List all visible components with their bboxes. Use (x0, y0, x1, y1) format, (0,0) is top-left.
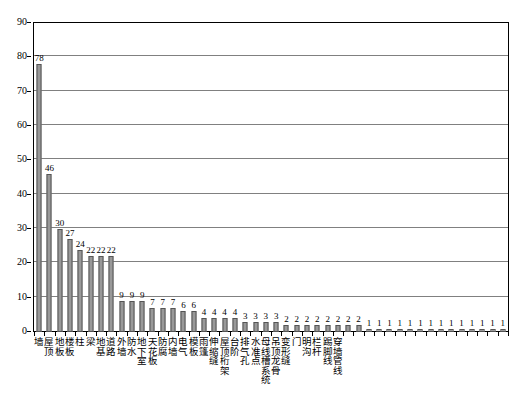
bar[interactable] (37, 64, 42, 332)
x-tick (467, 332, 468, 336)
x-tick (86, 332, 87, 336)
bar-slot: 1 (426, 23, 436, 332)
bar-value-label: 1 (398, 319, 403, 328)
bar-value-label: 7 (161, 298, 166, 307)
bar[interactable] (88, 256, 93, 332)
bar-value-label: 22 (107, 246, 116, 255)
bar[interactable] (315, 325, 320, 332)
x-tick (353, 332, 354, 336)
bar-slot: 7 (147, 23, 157, 332)
bar[interactable] (140, 301, 145, 332)
x-tick (116, 332, 117, 336)
x-tick (302, 332, 303, 336)
bar-slot: 1 (477, 23, 487, 332)
bar-slot: 3 (240, 23, 250, 332)
x-tick (292, 332, 293, 336)
bar[interactable] (335, 325, 340, 332)
bar-slot: 22 (106, 23, 116, 332)
bar-slot: 4 (219, 23, 229, 332)
bar[interactable] (346, 325, 351, 332)
bar-slot: 7 (158, 23, 168, 332)
bar[interactable] (243, 322, 248, 332)
bar-slot: 6 (189, 23, 199, 332)
bar-slot: 78 (34, 23, 44, 332)
bar[interactable] (47, 174, 52, 332)
bar-slot: 22 (96, 23, 106, 332)
bar-slot: 1 (456, 23, 466, 332)
y-tick-mark (27, 125, 31, 126)
bar-value-label: 2 (294, 315, 299, 324)
bar[interactable] (202, 318, 207, 332)
bar[interactable] (129, 301, 134, 332)
bar-slot: 2 (302, 23, 312, 332)
x-tick (364, 332, 365, 336)
x-tick (343, 332, 344, 336)
bar-value-label: 46 (45, 164, 54, 173)
x-tick (240, 332, 241, 336)
bar-slot: 2 (333, 23, 343, 332)
bar[interactable] (98, 256, 103, 332)
bar[interactable] (171, 308, 176, 332)
x-tick (477, 332, 478, 336)
bar-slot: 2 (292, 23, 302, 332)
bar-value-label: 1 (367, 319, 372, 328)
bar[interactable] (68, 239, 73, 332)
bar-value-label: 1 (439, 319, 444, 328)
x-tick (230, 332, 231, 336)
bar-slot: 2 (281, 23, 291, 332)
bar[interactable] (150, 308, 155, 332)
bar-value-label: 1 (428, 319, 433, 328)
bar[interactable] (294, 325, 299, 332)
bar[interactable] (253, 322, 258, 332)
bar-value-label: 1 (490, 319, 495, 328)
bar-slot: 3 (250, 23, 260, 332)
bar-slot: 24 (75, 23, 85, 332)
bar[interactable] (181, 311, 186, 332)
x-tick (281, 332, 282, 336)
bar[interactable] (356, 325, 361, 332)
bar[interactable] (57, 229, 62, 332)
x-tick (189, 332, 190, 336)
x-tick (271, 332, 272, 336)
x-tick (137, 332, 138, 336)
bar[interactable] (305, 325, 310, 332)
bar-value-label: 1 (387, 319, 392, 328)
bar[interactable] (212, 318, 217, 332)
bar-value-label: 22 (86, 246, 95, 255)
bar[interactable] (109, 256, 114, 332)
bar-value-label: 24 (76, 240, 85, 249)
bar[interactable] (222, 318, 227, 332)
bar[interactable] (78, 250, 83, 332)
bar[interactable] (325, 325, 330, 332)
bar-slot: 9 (127, 23, 137, 332)
y-tick-mark (27, 22, 31, 23)
bar-slot: 1 (395, 23, 405, 332)
bar-value-label: 4 (202, 308, 207, 317)
bar-value-label: 6 (191, 301, 196, 310)
bar[interactable] (274, 322, 279, 332)
bar[interactable] (232, 318, 237, 332)
x-tick (261, 332, 262, 336)
y-tick-mark (27, 194, 31, 195)
bar-slot: 4 (209, 23, 219, 332)
x-tick (384, 332, 385, 336)
y-tick-mark (27, 228, 31, 229)
bar-slot: 3 (261, 23, 271, 332)
bar[interactable] (263, 322, 268, 332)
bar-value-label: 2 (284, 315, 289, 324)
x-tick (106, 332, 107, 336)
bar-value-label: 1 (418, 319, 423, 328)
bar-slot: 1 (374, 23, 384, 332)
y-tick-mark (27, 297, 31, 298)
bar-slot: 27 (65, 23, 75, 332)
bar[interactable] (191, 311, 196, 332)
x-tick (209, 332, 210, 336)
bar[interactable] (284, 325, 289, 332)
bar[interactable] (119, 301, 124, 332)
bar[interactable] (160, 308, 165, 332)
x-axis-label-char: 线 (332, 367, 344, 377)
x-tick (395, 332, 396, 336)
bar-slot: 2 (312, 23, 322, 332)
y-tick-mark (27, 56, 31, 57)
x-tick (446, 332, 447, 336)
